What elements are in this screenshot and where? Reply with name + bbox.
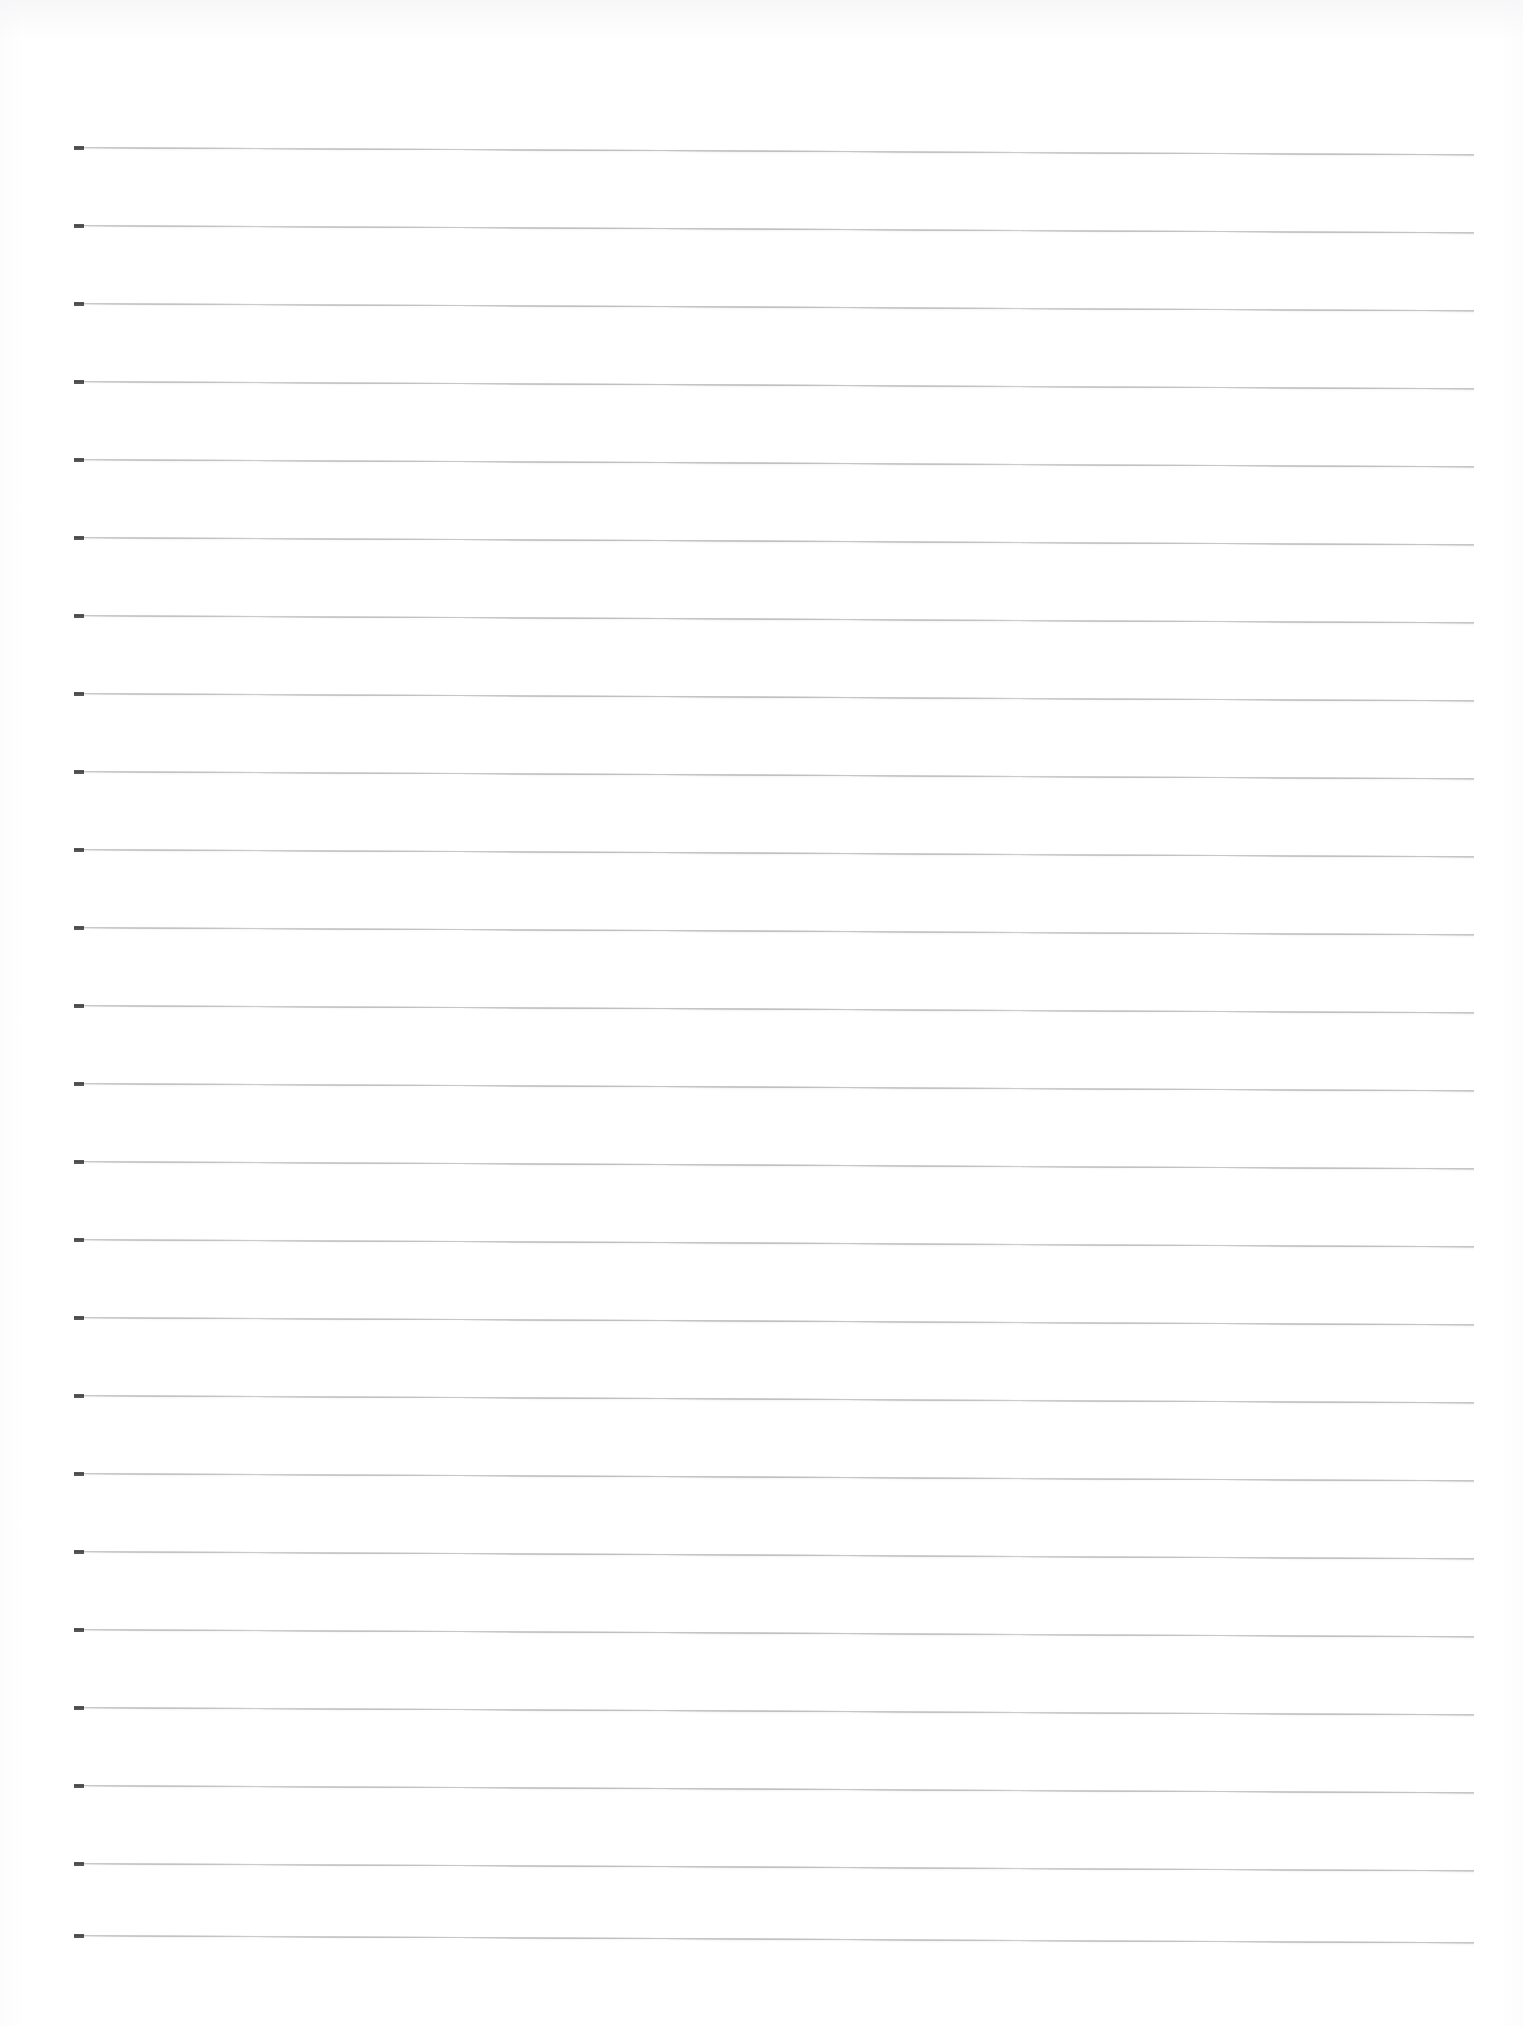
ruled-lines-group <box>0 0 1523 2026</box>
rule-line <box>74 615 1474 623</box>
rule-line <box>74 1473 1474 1481</box>
rule-line <box>74 1935 1474 1943</box>
rule-line <box>74 537 1474 545</box>
rule-line <box>74 693 1474 701</box>
rule-line <box>74 381 1474 389</box>
rule-line <box>74 1005 1474 1013</box>
rule-line <box>74 849 1474 857</box>
rule-line <box>74 927 1474 935</box>
page-canvas: Blank Ruled Notepad Page Scanned blank s… <box>0 0 1523 2026</box>
rule-line <box>74 1239 1474 1247</box>
rule-line <box>74 147 1474 155</box>
rule-line <box>74 1863 1474 1871</box>
rule-line <box>74 225 1474 233</box>
rule-line <box>74 1551 1474 1559</box>
rule-line <box>74 1707 1474 1715</box>
rule-line <box>74 1629 1474 1637</box>
rule-line <box>74 1083 1474 1091</box>
rule-line <box>74 771 1474 779</box>
rule-line <box>74 459 1474 467</box>
rule-line <box>74 1785 1474 1793</box>
rule-line <box>74 1161 1474 1169</box>
rule-line <box>74 1317 1474 1325</box>
rule-line <box>74 1395 1474 1403</box>
rule-line <box>74 303 1474 311</box>
